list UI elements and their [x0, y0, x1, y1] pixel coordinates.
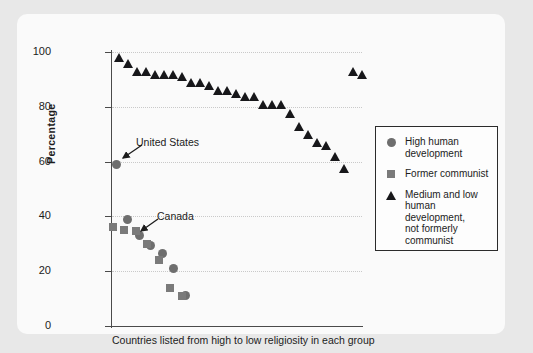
legend-label-medium-low-human-development: Medium and lowhuman development,not form…: [405, 189, 490, 247]
data-point-square: [155, 256, 163, 264]
figure-card: Percentage 020406080100 United States Ca…: [17, 14, 505, 334]
y-tick-label: 80: [39, 101, 51, 112]
data-point-triangle: [357, 70, 367, 79]
y-tick-label: 100: [33, 46, 51, 57]
data-point-square: [178, 292, 186, 300]
annotation-canada: Canada: [157, 210, 194, 222]
legend-label-high-human-development: High humandevelopment: [405, 136, 462, 159]
square-marker-icon: [384, 168, 398, 178]
circle-marker-icon: [384, 136, 398, 147]
data-point-square: [143, 240, 151, 248]
data-point-triangle: [330, 152, 340, 161]
triangle-marker-icon: [384, 189, 398, 200]
data-point-square: [120, 226, 128, 234]
annotation-united-states: United States: [136, 136, 199, 148]
legend-item-medium-low-human-development[interactable]: Medium and lowhuman development,not form…: [384, 189, 490, 247]
x-axis-line: [111, 326, 363, 327]
y-tick-label: 40: [39, 210, 51, 221]
y-tick: [105, 52, 112, 53]
data-point-square: [109, 223, 117, 231]
data-point-triangle: [339, 164, 349, 173]
y-tick-label: 0: [45, 320, 51, 331]
y-tick: [105, 326, 112, 327]
chart-legend: High humandevelopment Former communist M…: [375, 126, 498, 251]
legend-label-former-communist: Former communist: [405, 168, 488, 180]
data-point-circle: [123, 215, 132, 224]
data-point-triangle: [321, 141, 331, 150]
y-tick: [105, 271, 112, 272]
plot-area: [112, 52, 362, 326]
data-point-triangle: [276, 100, 286, 109]
y-tick-label: 20: [39, 265, 51, 276]
legend-item-high-human-development[interactable]: High humandevelopment: [384, 136, 490, 159]
x-axis-title: Countries listed from high to low religi…: [112, 334, 364, 346]
data-point-triangle: [285, 109, 295, 118]
y-tick: [105, 162, 112, 163]
y-tick-label: 60: [39, 156, 51, 167]
data-point-circle: [169, 264, 178, 273]
y-tick: [105, 216, 112, 217]
annotation-arrow-canada: [135, 217, 161, 237]
data-point-square: [166, 284, 174, 292]
y-tick: [105, 107, 112, 108]
legend-item-former-communist[interactable]: Former communist: [384, 168, 490, 180]
annotation-arrow-united-states: [117, 142, 145, 164]
